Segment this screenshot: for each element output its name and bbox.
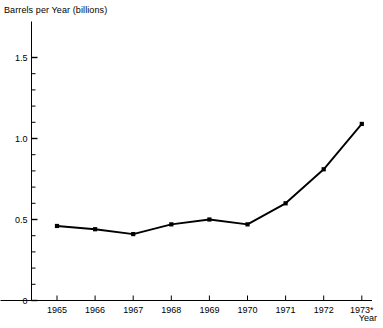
x-tick-label: 1967 [123,305,143,315]
x-tick-label: 1972 [314,305,334,315]
y-tick-label: 1.0 [15,134,28,144]
data-point-marker [169,222,173,226]
data-point-marker [207,217,211,221]
line-chart-plot: 00.51.01.5 19651966196719681969197019711… [0,0,383,328]
x-tick-label: 1970 [237,305,257,315]
data-point-marker [245,222,249,226]
data-point-marker [284,201,288,205]
data-point-marker [131,232,135,236]
x-tick-label: 1968 [161,305,181,315]
chart-container: Barrels per Year (billions) 00.51.01.5 1… [0,0,383,328]
data-series [55,122,364,236]
x-tick-label: 1971 [276,305,296,315]
data-point-marker [93,227,97,231]
data-point-marker [360,122,364,126]
data-point-marker [55,224,59,228]
y-axis: 00.51.01.5 [15,22,38,306]
x-tick-label: 1969 [199,305,219,315]
x-axis-title: Year [359,313,377,324]
y-tick-label: 0.5 [15,215,28,225]
x-tick-label: 1966 [85,305,105,315]
x-tick-label: 1965 [47,305,67,315]
x-axis: 196519661967196819691970197119721973* [1,296,375,315]
data-point-marker [322,167,326,171]
y-tick-label: 1.5 [15,53,28,63]
